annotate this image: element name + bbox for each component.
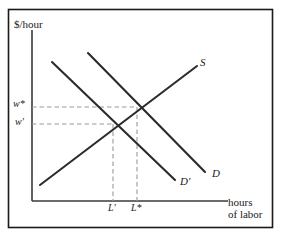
wage-prime-label: w' [15,117,24,128]
y-axis-label: $/hour [14,19,43,31]
supply-curve-label: S [200,57,206,69]
figure-border [9,10,273,228]
wage-star-label: w* [13,99,25,110]
labor-market-figure: $/hour hours of labor w* w' L' L* S D D' [0,0,282,237]
demand-curve-shifted-label: D' [180,176,190,188]
demand-curve-label: D [212,168,220,180]
x-axis-label-line2: of labor [228,209,263,221]
x-axis-label: hours of labor [228,197,263,220]
labor-star-label: L* [131,203,142,214]
labor-prime-label: L' [108,203,116,214]
x-axis-label-line1: hours [228,197,263,209]
